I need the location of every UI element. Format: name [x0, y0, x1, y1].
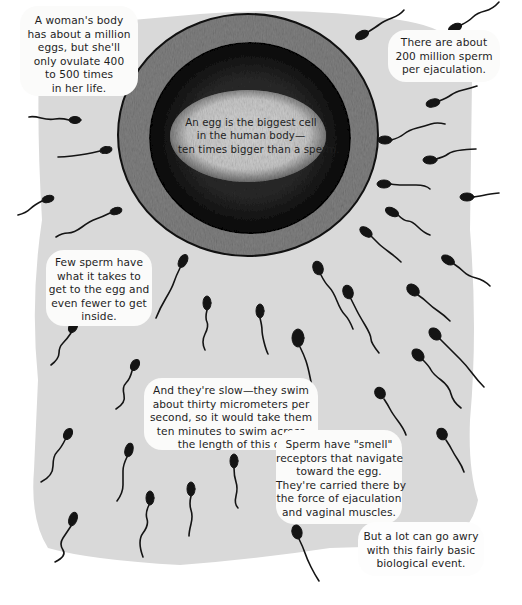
caption-bubble-smell-receptors: Sperm have "smell" receptors that naviga…	[276, 430, 402, 524]
caption-line: per ejaculation.	[388, 63, 500, 77]
caption-line: biological event.	[358, 557, 484, 571]
caption-line: But a lot can go awry	[358, 530, 484, 544]
egg-caption: An egg is the biggest cell in the human …	[178, 116, 324, 156]
caption-line: about thirty micrometers per	[144, 398, 318, 412]
caption-line: 200 million sperm	[388, 50, 500, 64]
caption-line: to 500 times	[20, 68, 138, 82]
caption-line: the force of ejaculation	[276, 492, 402, 506]
caption-line: They're carried there by	[276, 479, 402, 493]
caption-bubble-middle-left: Few sperm have what it takes to get to t…	[46, 250, 152, 326]
caption-line: has about a million	[20, 28, 138, 42]
caption-line: only ovulate 400	[20, 55, 138, 69]
caption-line: There are about	[388, 36, 500, 50]
caption-line: toward the egg.	[276, 465, 402, 479]
caption-line: with this fairly basic	[358, 544, 484, 558]
egg-caption-line: ten times bigger than a sperm.	[178, 143, 324, 156]
egg-caption-line: An egg is the biggest cell	[178, 116, 324, 129]
caption-line: inside.	[46, 310, 152, 324]
caption-line: A woman's body	[20, 14, 138, 28]
caption-line: Sperm have "smell"	[276, 438, 402, 452]
caption-bubble-top-left: A woman's body has about a million eggs,…	[20, 6, 138, 96]
illustration-page: An egg is the biggest cell in the human …	[0, 0, 522, 605]
caption-line: eggs, but she'll	[20, 41, 138, 55]
egg-caption-line: in the human body—	[178, 129, 324, 142]
caption-line: And they're slow—they swim	[144, 384, 318, 398]
caption-line: in her life.	[20, 82, 138, 96]
caption-bubble-top-right: There are about 200 million sperm per ej…	[388, 30, 500, 82]
caption-line: get to the egg and	[46, 283, 152, 297]
caption-line: second, so it would take them	[144, 411, 318, 425]
caption-line: even fewer to get	[46, 297, 152, 311]
caption-line: receptors that navigate	[276, 452, 402, 466]
caption-line: Few sperm have	[46, 256, 152, 270]
caption-line: and vaginal muscles.	[276, 506, 402, 520]
caption-bubble-bottom-right: But a lot can go awry with this fairly b…	[358, 522, 484, 576]
caption-line: what it takes to	[46, 270, 152, 284]
sperm	[460, 193, 499, 201]
